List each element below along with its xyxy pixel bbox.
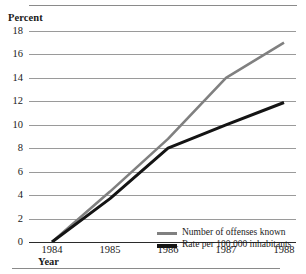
y-tick-label-6: 6 (3, 167, 23, 178)
series-lines (29, 31, 296, 242)
x-tick-label-1988: 1988 (262, 245, 306, 256)
y-tick-label-14: 14 (3, 73, 23, 84)
y-tick-label-10: 10 (3, 120, 23, 131)
x-axis-title: Year (38, 256, 59, 267)
y-axis-title: Percent (8, 12, 43, 23)
x-tick-label-1984: 1984 (30, 245, 74, 256)
line-number-of-offenses-known (52, 43, 284, 242)
chart-figure: Percent 181614121086420 Number of offens… (0, 0, 306, 274)
legend-item-offenses: Number of offenses known (157, 228, 306, 239)
x-tick-label-1987: 1987 (204, 245, 248, 256)
y-tick-label-12: 12 (3, 96, 23, 107)
y-tick-label-0: 0 (3, 237, 23, 248)
top-divider-rule (29, 5, 297, 6)
y-tick-label-16: 16 (3, 49, 23, 60)
x-tick-label-1985: 1985 (88, 245, 132, 256)
y-tick-label-2: 2 (3, 214, 23, 225)
y-tick-label-8: 8 (3, 143, 23, 154)
legend-swatch-gray (157, 232, 177, 235)
legend-label-offenses: Number of offenses known (182, 227, 286, 238)
y-tick-label-18: 18 (3, 26, 23, 37)
bottom-divider-rule (12, 268, 280, 269)
x-tick-label-1986: 1986 (146, 245, 190, 256)
line-rate-per-100000-inhabitants (52, 103, 284, 242)
y-tick-label-4: 4 (3, 190, 23, 201)
plot-area: 181614121086420 Number of offenses known… (29, 31, 296, 242)
